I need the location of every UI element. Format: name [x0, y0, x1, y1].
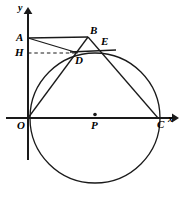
geometry-figure: A B E H D O P C y x — [0, 0, 181, 197]
center-point-dot — [93, 113, 97, 117]
point-label-D: D — [75, 55, 83, 66]
point-label-H: H — [15, 47, 24, 58]
segment-AB — [28, 37, 88, 38]
y-axis-label: y — [18, 3, 22, 13]
segment-BC-through-E — [88, 37, 158, 118]
point-label-O: O — [17, 120, 25, 131]
point-label-A: A — [16, 32, 23, 43]
y-axis-arrow-icon — [24, 7, 33, 14]
segment-OB-through-D — [28, 37, 88, 118]
point-label-P: P — [91, 120, 98, 131]
x-axis-arrow-icon — [172, 114, 179, 123]
point-label-C: C — [157, 119, 164, 130]
point-label-B: B — [90, 25, 97, 36]
segment-AD — [28, 38, 78, 53]
x-axis-label: x — [168, 114, 173, 124]
point-label-E: E — [101, 36, 108, 47]
